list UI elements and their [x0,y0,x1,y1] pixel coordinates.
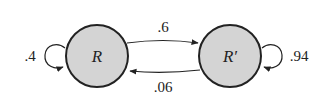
edge-r-to-r-prime-label: .6 [157,19,169,35]
edge-r-prime-to-r-label: .06 [154,79,173,95]
node-r-label: R [91,47,103,66]
self-loop-r-prime-label: .94 [290,48,309,64]
self-loop-r: .4 [24,45,65,68]
self-loop-r-label: .4 [24,48,36,64]
markov-diagram: R R′ .6 .06 .4 .94 [0,0,320,98]
node-r-prime: R′ [199,25,261,87]
node-r: R [66,25,128,87]
self-loop-r-prime: .94 [262,45,309,68]
node-r-prime-label: R′ [222,47,237,66]
edge-r-to-r-prime: .6 [127,19,198,43]
edge-r-prime-to-r: .06 [130,70,200,95]
